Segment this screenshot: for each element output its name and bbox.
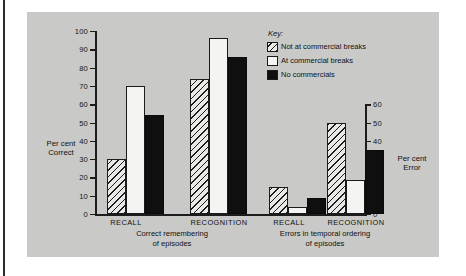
left-axis-title-line2: Correct — [33, 148, 89, 157]
left-axis-tick — [90, 104, 95, 105]
left-axis-tick-label: 0 — [66, 210, 88, 219]
bar-error-recognition-not-at-breaks — [327, 123, 346, 215]
right-axis-title: Per cent Error — [387, 154, 437, 173]
page-edge-line — [3, 0, 5, 276]
right-axis-tick — [366, 104, 371, 105]
right-axis-tick-label: 40 — [373, 137, 382, 146]
bar-correct-recognition-no-commercials — [228, 57, 247, 215]
bar-error-recognition-no-commercials — [365, 150, 384, 214]
group-label-error-recall: RECALL — [259, 218, 319, 227]
left-axis-tick — [90, 214, 95, 215]
left-axis-tick-label: 10 — [66, 192, 88, 201]
left-axis-tick — [90, 159, 95, 160]
legend-item-no-commercials: No commercials — [267, 69, 407, 82]
right-axis-title-line1: Per cent — [387, 154, 437, 163]
plot-area: 0 10 20 30 40 50 60 70 80 90 100 0 10 20… — [27, 12, 439, 257]
left-axis-tick-label: 80 — [66, 64, 88, 73]
legend-swatch-black-icon — [267, 70, 278, 81]
left-axis-tick — [90, 31, 95, 32]
bar-correct-recognition-not-at-breaks — [190, 79, 209, 215]
left-axis-tick — [90, 68, 95, 69]
section-caption-line1: Errors in temporal ordering — [245, 229, 405, 239]
left-axis-tick-label: 50 — [66, 119, 88, 128]
legend-title: Key: — [268, 29, 407, 38]
group-label-correct-recognition: RECOGNITION — [177, 218, 261, 227]
section-caption-line1: Correct remembering — [93, 229, 251, 239]
bar-error-recall-at-breaks — [288, 207, 307, 214]
legend-item-not-at-commercial-breaks: Not at commercial breaks — [267, 41, 407, 54]
legend-label: No commercials — [281, 70, 335, 79]
legend-swatch-white-icon — [267, 56, 278, 67]
section-caption-line2: of episodes — [245, 239, 405, 249]
right-axis-tick — [366, 141, 371, 142]
left-axis-title-line1: Per cent — [33, 139, 89, 148]
left-axis-line — [95, 31, 97, 215]
bar-error-recognition-at-breaks — [346, 180, 365, 215]
left-axis-tick-label: 60 — [66, 100, 88, 109]
legend-label: At commercial breaks — [281, 56, 353, 65]
bar-correct-recall-no-commercials — [145, 115, 164, 214]
chart-legend: Key: Not at commercial breaks At commerc… — [267, 29, 407, 83]
section-caption-correct-remembering: Correct remembering of episodes — [93, 229, 251, 248]
legend-item-at-commercial-breaks: At commercial breaks — [267, 55, 407, 68]
group-label-correct-recall: RECALL — [95, 218, 157, 227]
left-axis-tick — [90, 123, 95, 124]
legend-swatch-hatched-icon — [267, 42, 278, 53]
chart-screenshot: 0 10 20 30 40 50 60 70 80 90 100 0 10 20… — [0, 0, 466, 276]
bar-correct-recall-at-breaks — [126, 86, 145, 214]
right-axis-tick-label: 50 — [373, 119, 382, 128]
left-axis-tick-label: 20 — [66, 173, 88, 182]
section-caption-line2: of episodes — [93, 239, 251, 249]
right-axis-tick — [366, 123, 371, 124]
bar-error-recall-no-commercials — [307, 198, 326, 215]
bar-correct-recognition-at-breaks — [209, 38, 228, 214]
bar-error-recall-not-at-breaks — [269, 187, 288, 215]
left-axis-tick-label: 90 — [66, 45, 88, 54]
left-axis-tick — [90, 141, 95, 142]
right-axis-tick-label: 60 — [373, 100, 382, 109]
left-axis-tick-label: 100 — [66, 27, 88, 36]
chart-panel: 0 10 20 30 40 50 60 70 80 90 100 0 10 20… — [27, 12, 439, 257]
left-axis-tick — [90, 49, 95, 50]
group-label-error-recognition: RECOGNITION — [314, 218, 398, 227]
right-axis-title-line2: Error — [387, 163, 437, 172]
section-caption-errors-temporal-ordering: Errors in temporal ordering of episodes — [245, 229, 405, 248]
left-axis-tick — [90, 86, 95, 87]
left-axis-tick — [90, 177, 95, 178]
left-axis-tick — [90, 196, 95, 197]
left-axis-title: Per cent Correct — [33, 139, 89, 158]
bar-correct-recall-not-at-breaks — [107, 159, 126, 214]
left-axis-tick-label: 70 — [66, 82, 88, 91]
legend-label: Not at commercial breaks — [281, 42, 366, 51]
